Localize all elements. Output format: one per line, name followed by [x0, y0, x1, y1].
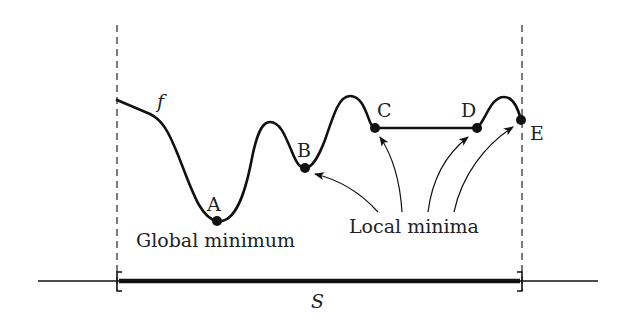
point-e-dot — [516, 115, 526, 125]
optimization-diagram: f A B C D E Global minimum Local minima … — [0, 0, 627, 331]
function-curve-end — [477, 97, 521, 128]
point-a-dot — [212, 216, 222, 226]
arrow-to-e — [454, 127, 513, 212]
global-minimum-label: Global minimum — [136, 229, 295, 251]
point-b-dot — [300, 163, 310, 173]
point-d-label: D — [461, 99, 476, 121]
function-curve — [117, 96, 375, 221]
point-c-label: C — [377, 99, 392, 121]
arrow-to-b — [315, 174, 378, 212]
point-a-label: A — [206, 193, 221, 215]
arrow-to-d — [428, 137, 468, 212]
point-e-label: E — [530, 122, 544, 144]
local-minima-label: Local minima — [349, 215, 479, 237]
point-d-dot — [472, 123, 482, 133]
arrow-to-c — [380, 137, 402, 212]
function-label: f — [155, 90, 167, 112]
set-label: S — [311, 290, 324, 312]
point-b-label: B — [297, 139, 311, 161]
point-c-dot — [370, 123, 380, 133]
